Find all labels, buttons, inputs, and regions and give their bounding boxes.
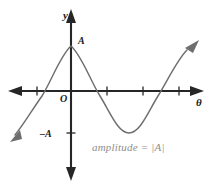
curve-lower-left-arrowhead	[10, 130, 22, 142]
sine-wave-amplitude-figure: y θ O A –A amplitude = |A|	[0, 0, 213, 184]
y-axis-label: y	[63, 10, 68, 21]
origin-label: O	[60, 94, 67, 104]
sine-wave-plot	[0, 0, 213, 184]
curve-upper-right-arrowhead	[185, 40, 199, 53]
amplitude-peak-label: A	[78, 36, 85, 46]
amplitude-equation-annotation: amplitude = |A|	[92, 142, 165, 153]
x-axis-right-arrowhead	[190, 86, 204, 96]
theta-axis-label: θ	[196, 97, 202, 108]
y-axis-bottom-arrowhead	[66, 167, 76, 181]
amplitude-trough-label: –A	[40, 129, 52, 139]
x-axis	[8, 86, 204, 96]
x-axis-left-arrowhead	[8, 86, 22, 96]
y-axis	[66, 9, 76, 181]
